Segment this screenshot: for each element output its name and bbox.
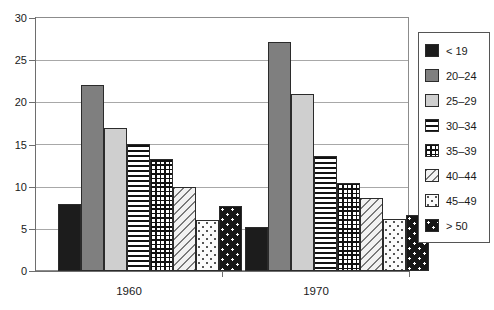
y-tick-mark <box>29 187 35 188</box>
bar-fill-horizontal-lines <box>315 157 336 270</box>
bar-fill-cross-grid <box>338 184 359 270</box>
legend: < 1920–2425–2930–3435–3940–4445–49> 50 <box>418 32 490 243</box>
legend-label: 25–29 <box>446 95 477 107</box>
y-tick-label: 20 <box>3 97 27 108</box>
bar-fill-solid-light-grey <box>292 95 313 270</box>
legend-item[interactable]: 30–34 <box>419 113 489 138</box>
legend-label: > 50 <box>446 220 468 232</box>
legend-item[interactable]: 35–39 <box>419 138 489 163</box>
bar-fill-solid-black <box>59 205 80 270</box>
bar-fill-solid-dark-grey <box>269 43 290 270</box>
legend-item[interactable]: < 19 <box>419 38 489 63</box>
legend-swatch-fill <box>426 70 438 81</box>
y-tick-mark <box>29 145 35 146</box>
legend-swatch-solid-light-grey <box>425 94 439 107</box>
legend-label: 20–24 <box>446 70 477 82</box>
bar <box>291 94 314 271</box>
legend-swatch-fill <box>426 45 438 56</box>
bar-fill-light-dots <box>384 220 405 270</box>
bar <box>150 159 173 271</box>
bar <box>81 85 104 271</box>
bar <box>337 183 360 271</box>
bar <box>104 128 127 271</box>
x-tick-label: 1970 <box>286 285 346 297</box>
bar <box>268 42 291 271</box>
bar-fill-solid-light-grey <box>105 129 126 270</box>
bar <box>58 204 81 271</box>
bar-fill-light-dots <box>197 221 218 270</box>
legend-swatch-solid-black <box>425 44 439 57</box>
bar-chart: 051015202530 19601970 < 1920–2425–2930–3… <box>0 0 494 310</box>
legend-swatch-fill <box>426 170 438 181</box>
legend-label: 40–44 <box>446 170 477 182</box>
legend-label: 30–34 <box>446 120 477 132</box>
bar-fill-diagonal-lines <box>174 188 195 270</box>
legend-swatch-cross-grid <box>425 144 439 157</box>
legend-item[interactable]: 25–29 <box>419 88 489 113</box>
bar <box>314 156 337 271</box>
bars-layer <box>36 18 408 271</box>
bar <box>245 227 268 271</box>
bar-fill-dark-dots <box>220 207 241 270</box>
legend-swatch-fill <box>426 220 438 231</box>
bar <box>173 187 196 271</box>
legend-swatch-solid-dark-grey <box>425 69 439 82</box>
bar <box>360 198 383 271</box>
y-tick-label: 0 <box>3 266 27 277</box>
y-tick-mark <box>29 102 35 103</box>
bar <box>383 219 406 271</box>
y-tick-mark <box>29 229 35 230</box>
bar-fill-cross-grid <box>151 160 172 270</box>
bar-fill-solid-dark-grey <box>82 86 103 270</box>
bar-fill-horizontal-lines <box>128 145 149 270</box>
legend-swatch-horizontal-lines <box>425 119 439 132</box>
legend-swatch-light-dots <box>425 194 439 207</box>
bar-fill-solid-black <box>246 228 267 270</box>
legend-swatch-dark-dots <box>425 219 439 232</box>
y-tick-label: 25 <box>3 55 27 66</box>
bar <box>219 206 242 271</box>
bar <box>127 144 150 271</box>
legend-swatch-fill <box>426 95 438 106</box>
x-tick-mark <box>409 271 410 277</box>
bar <box>196 220 219 271</box>
y-tick-label: 30 <box>3 13 27 24</box>
legend-label: 35–39 <box>446 145 477 157</box>
legend-item[interactable]: 45–49 <box>419 188 489 213</box>
legend-item[interactable]: 20–24 <box>419 63 489 88</box>
legend-item[interactable]: > 50 <box>419 213 489 238</box>
legend-swatch-fill <box>426 120 438 131</box>
legend-item[interactable]: 40–44 <box>419 163 489 188</box>
x-axis <box>29 271 410 272</box>
legend-swatch-diagonal-lines <box>425 169 439 182</box>
y-tick-mark <box>29 60 35 61</box>
y-tick-label: 10 <box>3 182 27 193</box>
bar-fill-diagonal-lines <box>361 199 382 270</box>
y-tick-label: 5 <box>3 224 27 235</box>
legend-swatch-fill <box>426 195 438 206</box>
legend-swatch-fill <box>426 145 438 156</box>
x-tick-mark <box>222 271 223 277</box>
legend-label: 45–49 <box>446 195 477 207</box>
legend-label: < 19 <box>446 45 468 57</box>
y-tick-label: 15 <box>3 140 27 151</box>
y-tick-mark <box>29 18 35 19</box>
x-tick-label: 1960 <box>99 285 159 297</box>
